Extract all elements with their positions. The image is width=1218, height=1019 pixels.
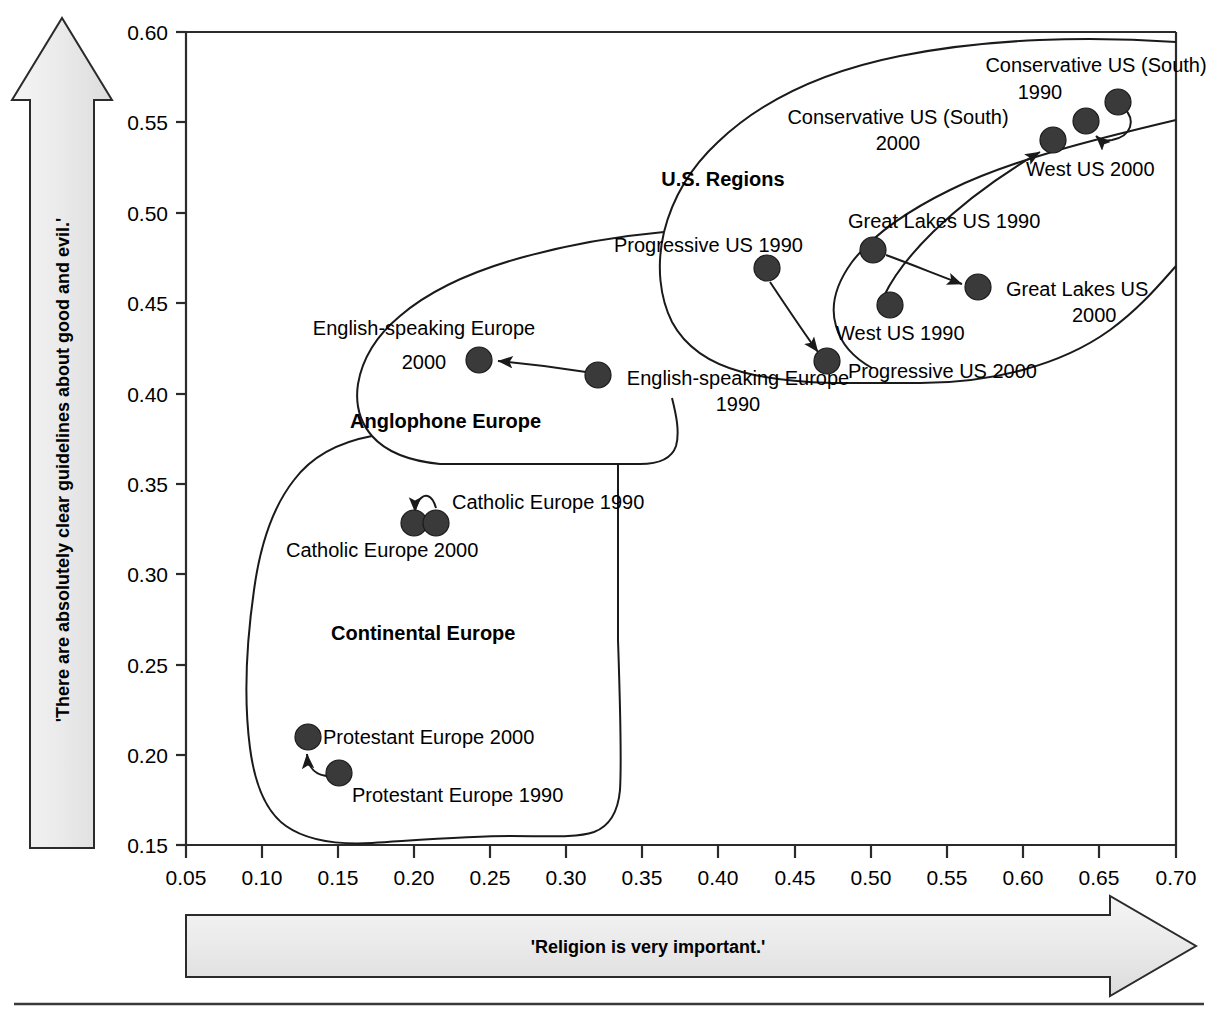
label-conservative-us-south-1990-line2: 1990: [1018, 81, 1063, 103]
y-tick-3: 0.45: [127, 292, 168, 315]
x-tick-12: 0.65: [1079, 866, 1120, 889]
label-protestant-europe-2000: Protestant Europe 2000: [323, 726, 534, 748]
cluster-label-continental-europe: Continental Europe: [331, 622, 515, 644]
data-point-english-speaking-europe-1990[interactable]: [585, 362, 611, 388]
x-tick-11: 0.60: [1003, 866, 1044, 889]
label-great-lakes-us-1990: Great Lakes US 1990: [848, 210, 1040, 232]
x-axis-arrow: 'Religion is very important.': [186, 896, 1196, 996]
x-tick-0: 0.05: [166, 866, 207, 889]
x-tick-7: 0.40: [698, 866, 739, 889]
y-axis-ticks: 0.60 0.55 0.50 0.45 0.40 0.35 0.30 0.25 …: [127, 21, 186, 857]
y-axis-arrow: 'There are absolutely clear guidelines a…: [12, 18, 112, 848]
y-tick-9: 0.15: [127, 834, 168, 857]
x-tick-2: 0.15: [318, 866, 359, 889]
y-tick-8: 0.20: [127, 744, 168, 767]
data-point-great-lakes-us-1990[interactable]: [860, 237, 886, 263]
data-points: [295, 89, 1131, 786]
x-axis-ticks: 0.05 0.10 0.15 0.20 0.25 0.30 0.35 0.40 …: [166, 845, 1197, 889]
label-progressive-us-2000: Progressive US 2000: [848, 360, 1037, 382]
x-tick-8: 0.45: [775, 866, 816, 889]
arrow-great-lakes-us: [886, 255, 962, 284]
x-tick-10: 0.55: [927, 866, 968, 889]
cluster-label-anglophone-europe: Anglophone Europe: [350, 410, 541, 432]
label-great-lakes-us-2000-line2: 2000: [1072, 304, 1117, 326]
y-tick-0: 0.60: [127, 21, 168, 44]
x-tick-5: 0.30: [546, 866, 587, 889]
y-axis-arrow-label: 'There are absolutely clear guidelines a…: [53, 218, 73, 723]
y-tick-5: 0.35: [127, 473, 168, 496]
data-point-catholic-europe-1990[interactable]: [423, 510, 449, 536]
arrow-progressive-us: [770, 282, 818, 352]
label-english-speaking-europe-1990-line2: 1990: [716, 393, 761, 415]
label-great-lakes-us-2000-line1: Great Lakes US: [1006, 278, 1148, 300]
label-english-speaking-europe-2000-line1: English-speaking Europe: [313, 317, 535, 339]
x-axis-arrow-label: 'Religion is very important.': [531, 937, 766, 957]
label-catholic-europe-1990: Catholic Europe 1990: [452, 491, 644, 513]
label-protestant-europe-1990: Protestant Europe 1990: [352, 784, 563, 806]
x-tick-6: 0.35: [622, 866, 663, 889]
arrow-catholic-europe: [415, 496, 436, 512]
label-west-us-1990: West US 1990: [836, 322, 965, 344]
scatter-chart: 'There are absolutely clear guidelines a…: [0, 0, 1218, 1019]
label-west-us-2000: West US 2000: [1026, 158, 1155, 180]
plot-axes: [186, 32, 1176, 845]
data-point-protestant-europe-1990[interactable]: [326, 760, 352, 786]
label-conservative-us-south-2000-line2: 2000: [876, 132, 921, 154]
y-tick-2: 0.50: [127, 202, 168, 225]
label-progressive-us-1990: Progressive US 1990: [614, 234, 803, 256]
label-english-speaking-europe-2000-line2: 2000: [402, 351, 447, 373]
label-catholic-europe-2000: Catholic Europe 2000: [286, 539, 478, 561]
label-conservative-us-south-1990-line1: Conservative US (South): [985, 54, 1206, 76]
y-tick-6: 0.30: [127, 563, 168, 586]
data-point-conservative-us-south-2000[interactable]: [1073, 108, 1099, 134]
transition-arrows: [307, 108, 1131, 776]
data-point-conservative-us-south-1990[interactable]: [1105, 89, 1131, 115]
label-conservative-us-south-2000-line1: Conservative US (South): [787, 106, 1008, 128]
data-point-west-us-2000[interactable]: [1040, 127, 1066, 153]
figure-container: 'There are absolutely clear guidelines a…: [0, 0, 1218, 1019]
y-tick-1: 0.55: [127, 111, 168, 134]
data-point-west-us-1990[interactable]: [877, 292, 903, 318]
data-point-progressive-us-1990[interactable]: [754, 255, 780, 281]
x-tick-1: 0.10: [242, 866, 283, 889]
data-point-protestant-europe-2000[interactable]: [295, 724, 321, 750]
x-tick-9: 0.50: [851, 866, 892, 889]
label-english-speaking-europe-1990-line1: English-speaking Europe: [627, 367, 849, 389]
x-tick-3: 0.20: [394, 866, 435, 889]
cluster-label-us-regions: U.S. Regions: [661, 168, 784, 190]
x-tick-4: 0.25: [470, 866, 511, 889]
y-tick-7: 0.25: [127, 654, 168, 677]
x-tick-13: 0.70: [1156, 866, 1197, 889]
arrow-english-speaking-europe: [498, 361, 586, 372]
y-tick-4: 0.40: [127, 383, 168, 406]
data-point-great-lakes-us-2000[interactable]: [965, 274, 991, 300]
data-point-english-speaking-europe-2000[interactable]: [466, 347, 492, 373]
